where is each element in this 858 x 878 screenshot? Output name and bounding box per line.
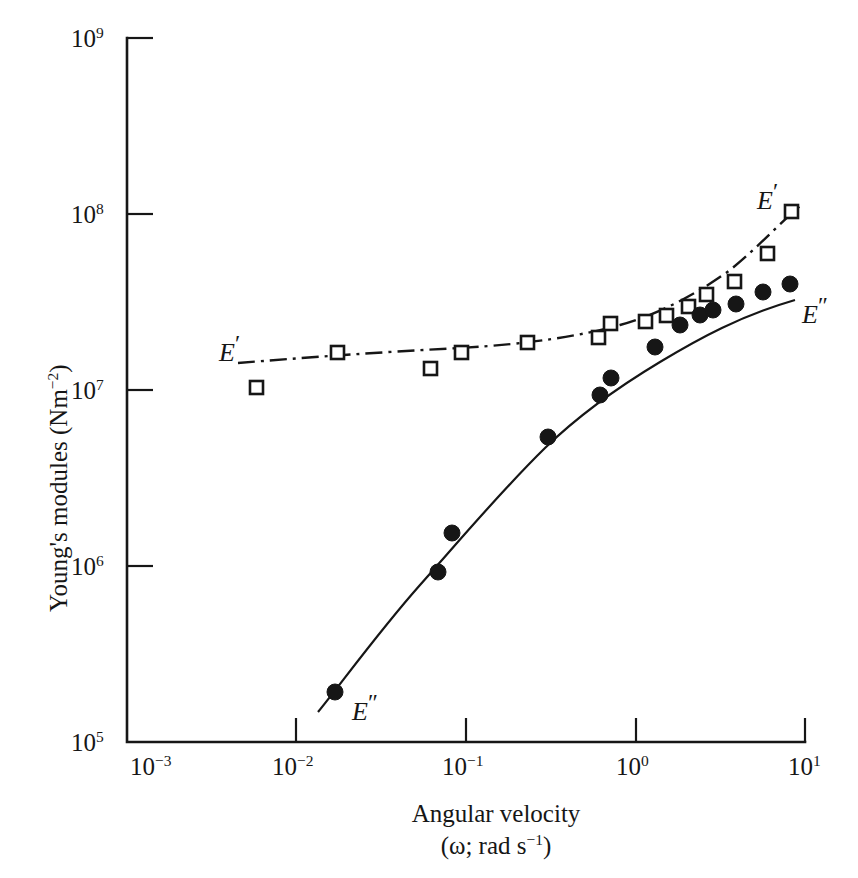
figure-container: 109 108 107 106 105 10−3 10−2 10−1 100 1… bbox=[0, 0, 858, 878]
series-markers-e-double-prime bbox=[327, 276, 798, 700]
x-axis-title-line1: Angular velocity bbox=[331, 798, 661, 830]
curve-label-e-prime-left: E′ bbox=[219, 330, 241, 368]
y-tick-label-4: 105 bbox=[71, 728, 104, 757]
x-tick-label-2: 10−1 bbox=[442, 752, 484, 781]
axis-frame bbox=[127, 38, 805, 742]
y-axis-ticks bbox=[127, 38, 153, 566]
x-axis-title-line2: (ω; rad s−1) bbox=[331, 830, 661, 862]
curve-label-e-double-prime-right: E″ bbox=[802, 292, 829, 330]
y-tick-label-0: 109 bbox=[71, 24, 104, 53]
x-axis-title: Angular velocity (ω; rad s−1) bbox=[331, 798, 661, 862]
curve-label-e-prime-right: E′ bbox=[757, 178, 779, 216]
x-tick-label-1: 10−2 bbox=[272, 752, 314, 781]
series-line-e-double-prime bbox=[318, 300, 795, 712]
curve-label-e-double-prime-left: E″ bbox=[352, 689, 379, 727]
series-line-e-prime bbox=[238, 206, 800, 363]
x-tick-label-0: 10−3 bbox=[130, 752, 172, 781]
y-tick-label-1: 108 bbox=[71, 200, 104, 229]
y-tick-label-2: 107 bbox=[71, 376, 104, 405]
x-tick-label-3: 100 bbox=[616, 752, 649, 781]
chart-canvas bbox=[0, 0, 858, 878]
series-markers-e-prime bbox=[250, 205, 798, 394]
y-tick-label-3: 106 bbox=[71, 552, 104, 581]
x-tick-label-4: 101 bbox=[788, 752, 821, 781]
y-axis-title: Young's modules (Nm−2) bbox=[44, 364, 73, 612]
